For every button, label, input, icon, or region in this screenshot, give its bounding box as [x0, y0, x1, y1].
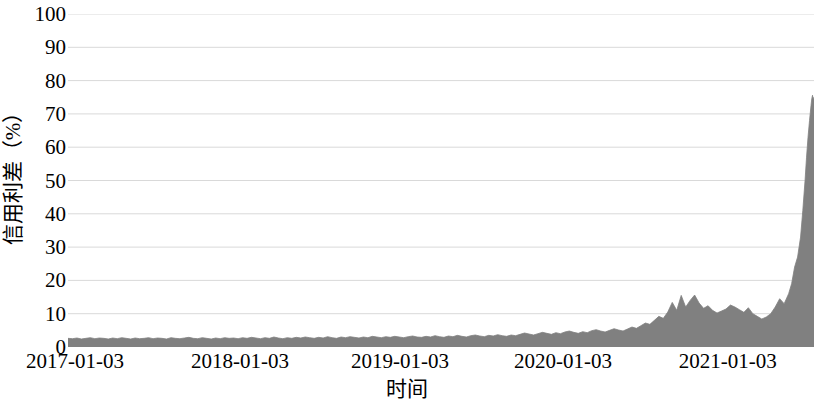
chart-figure: 信用利差（%） 0102030405060708090100 2017-01-0… — [0, 0, 814, 407]
x-tick-label: 2019-01-03 — [351, 350, 449, 373]
x-tick-label: 2017-01-03 — [26, 350, 124, 373]
y-tick-label: 80 — [26, 70, 66, 91]
plot-area — [68, 14, 814, 347]
y-tick-label: 30 — [26, 237, 66, 258]
y-tick-label: 20 — [26, 270, 66, 291]
y-tick-label: 100 — [26, 4, 66, 25]
y-tick-label: 50 — [26, 170, 66, 191]
y-axis-tick-labels: 0102030405060708090100 — [26, 0, 66, 360]
area-series — [68, 95, 814, 347]
x-tick-label: 2018-01-03 — [191, 350, 289, 373]
x-tick-label: 2020-01-03 — [514, 350, 612, 373]
plot-svg — [68, 14, 814, 347]
x-axis-title: 时间 — [0, 378, 814, 401]
x-tick-label: 2021-01-03 — [679, 350, 777, 373]
y-tick-label: 70 — [26, 103, 66, 124]
y-tick-label: 90 — [26, 37, 66, 58]
series-area — [68, 95, 814, 347]
x-axis-tick-labels: 2017-01-032018-01-032019-01-032020-01-03… — [0, 350, 814, 380]
y-tick-label: 10 — [26, 303, 66, 324]
y-axis-title: 信用利差（%） — [0, 0, 28, 347]
y-tick-label: 60 — [26, 137, 66, 158]
y-tick-label: 40 — [26, 203, 66, 224]
y-axis-title-text: 信用利差（%） — [4, 102, 25, 246]
gridlines — [68, 14, 814, 314]
